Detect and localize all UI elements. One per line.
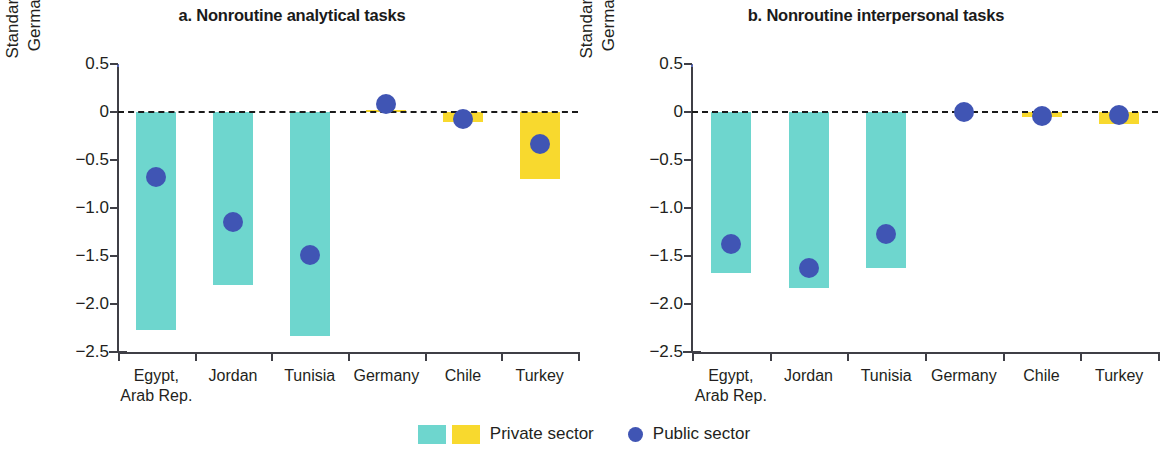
- legend-item-public-sector: Public sector: [594, 424, 750, 444]
- panel-a-y-tick: [110, 303, 118, 305]
- dot-public-sector: [453, 109, 473, 129]
- legend-label-public-sector: Public sector: [653, 424, 750, 444]
- x-axis-category-label: Jordan: [784, 366, 833, 386]
- panel-a: a. Nonroutine analytical tasks Standard …: [0, 0, 584, 420]
- bar-private-sector: [136, 112, 176, 330]
- panel-a-y-tick-label: −1.0: [75, 198, 109, 218]
- panel-a-y-tick-label: 0.5: [85, 54, 109, 74]
- panel-b-plot-area: 0.50−0.5−1.0−1.5−2.0−2.5Egypt, Arab Rep.…: [692, 64, 1158, 352]
- dot-public-sector: [799, 258, 819, 278]
- legend-item-private-sector: Private sector: [418, 424, 594, 444]
- panel-b-x-tick: [925, 352, 927, 361]
- panel-b-y-tick: [684, 255, 692, 257]
- panel-b-y-tick-label: −2.5: [649, 342, 683, 362]
- legend-swatch-yellow-icon: [452, 425, 480, 444]
- panel-b-y-tick: [684, 303, 692, 305]
- x-axis-category-label: Jordan: [209, 366, 258, 386]
- dot-public-sector: [530, 134, 550, 154]
- legend-swatch-teal-icon: [418, 425, 446, 444]
- panel-a-x-tick: [578, 352, 580, 361]
- legend-label-private-sector: Private sector: [490, 424, 594, 444]
- x-axis-category-label: Tunisia: [861, 366, 912, 386]
- panel-b-y-tick: [684, 159, 692, 161]
- panel-b-y-tick: [684, 111, 692, 113]
- bar-private-sector: [213, 112, 253, 285]
- x-axis-category-label: Egypt, Arab Rep.: [695, 366, 767, 406]
- dot-public-sector: [1109, 105, 1129, 125]
- panel-a-x-tick: [118, 352, 120, 361]
- dot-public-sector: [721, 234, 741, 254]
- bar-private-sector: [866, 112, 906, 268]
- legend-dot-icon: [628, 427, 643, 442]
- panel-b-y-axis-label: Standard deviations from Germany's mean …: [576, 0, 620, 108]
- panel-a-x-tick: [348, 352, 350, 361]
- x-axis-category-label: Germany: [353, 366, 419, 386]
- panel-a-y-tick: [110, 63, 118, 65]
- panel-b-y-tick: [684, 207, 692, 209]
- panel-a-y-tick: [110, 207, 118, 209]
- panel-a-y-tick: [110, 255, 118, 257]
- panel-a-plot-area: 0.50−0.5−1.0−1.5−2.0−2.5Egypt, Arab Rep.…: [118, 64, 578, 352]
- panel-a-y-tick: [110, 111, 118, 113]
- dot-public-sector: [376, 94, 396, 114]
- x-axis-category-label: Egypt, Arab Rep.: [120, 366, 192, 406]
- panel-b-y-tick: [684, 63, 692, 65]
- x-axis-category-label: Tunisia: [284, 366, 335, 386]
- panel-a-y-tick-label: −2.5: [75, 342, 109, 362]
- legend: Private sector Public sector: [0, 424, 1168, 444]
- panel-a-title: a. Nonroutine analytical tasks: [0, 6, 584, 25]
- panel-b-y-tick-label: 0.5: [659, 54, 683, 74]
- dot-public-sector: [1032, 106, 1052, 126]
- panel-a-y-tick-label: −1.5: [75, 246, 109, 266]
- dot-public-sector: [146, 167, 166, 187]
- panel-b: b. Nonroutine interpersonal tasks Standa…: [584, 0, 1168, 420]
- panel-b-zero-reference-line: [692, 111, 1158, 113]
- x-axis-category-label: Chile: [445, 366, 481, 386]
- panel-a-y-axis-label-line2: Germany's mean value: [25, 0, 44, 51]
- panel-b-x-tick: [847, 352, 849, 361]
- dot-public-sector: [876, 224, 896, 244]
- dot-public-sector: [223, 212, 243, 232]
- dot-public-sector: [300, 245, 320, 265]
- panel-a-y-tick-label: −0.5: [75, 150, 109, 170]
- figure: a. Nonroutine analytical tasks Standard …: [0, 0, 1168, 458]
- panel-b-y-tick-label: −1.0: [649, 198, 683, 218]
- panel-b-y-axis-label-line1: Standard deviations from: [577, 0, 596, 59]
- x-axis-category-label: Germany: [931, 366, 997, 386]
- x-axis-category-label: Turkey: [516, 366, 564, 386]
- panel-b-y-axis-label-line2: Germany's mean value: [599, 0, 618, 51]
- panel-a-x-tick: [271, 352, 273, 361]
- panel-b-y-tick-label: −2.0: [649, 294, 683, 314]
- panel-a-x-tick: [425, 352, 427, 361]
- panel-a-x-tick: [501, 352, 503, 361]
- x-axis-category-label: Turkey: [1095, 366, 1143, 386]
- panel-b-y-tick-label: −1.5: [649, 246, 683, 266]
- panel-b-x-tick: [1003, 352, 1005, 361]
- panel-b-y-tick-label: −0.5: [649, 150, 683, 170]
- panel-a-y-tick-label: 0: [100, 102, 109, 122]
- panel-a-y-axis-label: Standard deviations from Germany's mean …: [2, 0, 46, 108]
- panel-a-y-tick-label: −2.0: [75, 294, 109, 314]
- panel-b-x-tick: [1080, 352, 1082, 361]
- panel-b-x-tick: [770, 352, 772, 361]
- panel-a-y-axis-label-line1: Standard deviations from: [3, 0, 22, 59]
- bar-private-sector: [290, 112, 330, 336]
- panel-b-y-tick-label: 0: [674, 102, 683, 122]
- panel-a-zero-reference-line: [118, 111, 578, 113]
- panel-a-x-tick: [195, 352, 197, 361]
- panel-b-title: b. Nonroutine interpersonal tasks: [584, 6, 1168, 25]
- dot-public-sector: [954, 102, 974, 122]
- panel-b-x-tick: [1158, 352, 1160, 361]
- panel-a-y-tick: [110, 159, 118, 161]
- x-axis-category-label: Chile: [1023, 366, 1059, 386]
- panel-b-x-tick: [692, 352, 694, 361]
